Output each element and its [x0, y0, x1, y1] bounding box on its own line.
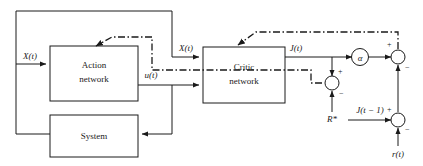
diagram-canvas: α Action network System Critic network X…	[0, 0, 423, 166]
sign-sum-reward-plus: +	[338, 67, 343, 76]
signal-label-x-critic: X(t)	[178, 43, 193, 53]
signal-label-x-in: X(t)	[22, 51, 37, 61]
path-error-to-critic	[238, 32, 398, 49]
critic-network-label-line1: Critic	[234, 62, 255, 72]
adaptive-critic-diagram: α Action network System Critic network X…	[0, 0, 423, 166]
node-sum-top	[391, 50, 405, 64]
sign-sum-bottom-minus: −	[405, 125, 410, 134]
node-sum-reward	[325, 76, 339, 90]
action-network-label-line2: network	[79, 74, 109, 84]
alpha-label: α	[358, 53, 363, 63]
sign-sum-top-plus: +	[387, 40, 392, 49]
critic-network-label-line2: network	[229, 76, 259, 86]
signal-label-r-star: R*	[326, 114, 337, 124]
sign-sum-reward-minus: −	[339, 89, 344, 98]
signal-label-r-t: r(t)	[392, 149, 404, 159]
signal-label-j-out: J(t)	[290, 43, 303, 53]
path-u-to-system	[142, 85, 172, 134]
action-network-label-line1: Action	[82, 60, 107, 70]
block-critic-network	[203, 47, 285, 103]
sign-sum-top-minus: −	[405, 63, 410, 72]
node-sum-bottom	[391, 113, 405, 127]
node-alpha-gain: α	[352, 49, 369, 66]
signal-label-j-prev: J(t − 1)	[356, 105, 384, 115]
signal-label-u-out: u(t)	[145, 70, 158, 80]
system-label: System	[81, 131, 108, 141]
sign-sum-bottom-plus: +	[387, 105, 392, 114]
